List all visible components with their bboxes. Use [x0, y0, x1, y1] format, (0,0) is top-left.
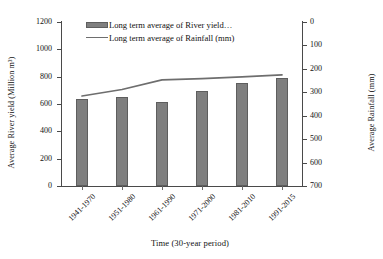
y-axis-right-tick — [302, 22, 307, 23]
y-axis-left-tick — [57, 159, 62, 160]
x-axis-tick — [282, 186, 283, 190]
x-axis-tick — [202, 186, 203, 190]
bar-1991-2015[interactable] — [276, 78, 288, 186]
y-axis-left-tick-label: 400 — [12, 126, 52, 135]
y-axis-left-tick — [57, 22, 62, 23]
y-axis-right-title: Average Rainfall (mm) — [367, 48, 376, 178]
chart-container: Average River yield (Million m³) Average… — [0, 0, 383, 259]
legend-label-river-yield: Long term average of River yield… — [109, 19, 232, 32]
y-axis-left-tick-label: 0 — [12, 181, 52, 190]
y-axis-right-tick-label: 300 — [310, 87, 350, 96]
legend-item-river-yield[interactable]: Long term average of River yield… — [86, 19, 234, 32]
x-axis-tick — [122, 186, 123, 190]
plot-area — [62, 22, 302, 186]
x-axis-line — [61, 186, 303, 187]
x-axis-title: Time (30-year period) — [60, 238, 320, 248]
y-axis-right-tick — [302, 139, 307, 140]
y-axis-left-tick-label: 1200 — [12, 17, 52, 26]
x-axis-tick — [242, 186, 243, 190]
y-axis-left-tick — [57, 49, 62, 50]
bar-1971-2000[interactable] — [196, 91, 208, 186]
line-swatch-icon — [86, 37, 108, 38]
y-axis-left-tick — [57, 131, 62, 132]
y-axis-right-tick-label: 500 — [310, 134, 350, 143]
y-axis-left-tick — [57, 186, 62, 187]
x-axis-tick — [162, 186, 163, 190]
y-axis-right-tick — [302, 116, 307, 117]
y-axis-right-tick — [302, 69, 307, 70]
y-axis-left-tick-label: 200 — [12, 154, 52, 163]
bar-1951-1980[interactable] — [116, 97, 128, 186]
y-axis-right-tick-label: 0 — [310, 17, 350, 26]
bar-1961-1990[interactable] — [156, 102, 168, 186]
x-axis-tick — [82, 186, 83, 190]
chart-legend: Long term average of River yield… Long t… — [86, 19, 234, 44]
legend-item-rainfall[interactable]: Long term average of Rainfall (mm) — [86, 32, 234, 45]
y-axis-left-tick-label: 800 — [12, 72, 52, 81]
y-axis-left-tick — [57, 77, 62, 78]
y-axis-right-tick — [302, 92, 307, 93]
bar-1941-1970[interactable] — [76, 99, 88, 186]
bar-swatch-icon — [86, 22, 108, 28]
y-axis-right-tick-label: 600 — [310, 158, 350, 167]
y-axis-right-tick-label: 400 — [310, 111, 350, 120]
y-axis-left-tick-label: 1000 — [12, 44, 52, 53]
y-axis-right-tick-label: 700 — [310, 181, 350, 190]
y-axis-right-tick — [302, 45, 307, 46]
bar-1981-2010[interactable] — [236, 83, 248, 186]
legend-label-rainfall: Long term average of Rainfall (mm) — [109, 32, 234, 45]
y-axis-right-tick-label: 200 — [310, 64, 350, 73]
y-axis-left-tick — [57, 104, 62, 105]
y-axis-left-tick-label: 600 — [12, 99, 52, 108]
y-axis-right-tick — [302, 186, 307, 187]
y-axis-right-tick-label: 100 — [310, 40, 350, 49]
y-axis-right-tick — [302, 163, 307, 164]
